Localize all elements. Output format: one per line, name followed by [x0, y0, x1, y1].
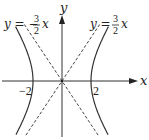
x-axis-label: x — [140, 73, 148, 88]
y-axis-label: y — [59, 0, 68, 15]
asymptote-left-variable: x — [42, 17, 49, 31]
y-axis-arrow-icon — [59, 15, 65, 24]
asymptote-left-denominator: 2 — [34, 25, 39, 36]
asymptote-label-right: y = 3 2 x — [89, 13, 128, 36]
hyperbola-diagram: x y −2 2 y = − 3 2 x y = 3 2 x — [0, 0, 149, 140]
asymptote-right-denominator: 2 — [113, 25, 118, 36]
x-axis-arrow-icon — [129, 78, 138, 84]
asymptote-label-left: y = − 3 2 x — [3, 13, 49, 36]
vertex-label-left: −2 — [19, 84, 32, 98]
asymptote-right-prefix: y = — [89, 17, 111, 31]
asymptote-right-variable: x — [121, 17, 128, 31]
asymptote-right-numerator: 3 — [113, 13, 118, 24]
vertex-label-right: 2 — [93, 84, 99, 98]
asymptote-left-numerator: 3 — [34, 13, 39, 24]
origin-point — [61, 80, 63, 82]
